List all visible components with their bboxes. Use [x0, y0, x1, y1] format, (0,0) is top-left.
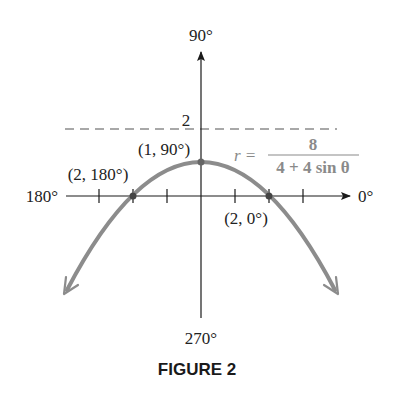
label-0deg: 0° — [358, 187, 373, 206]
figure-caption: FIGURE 2 — [158, 360, 236, 379]
equation: r = 8 4 + 4 sin θ — [234, 135, 359, 177]
point-label-0: (2, 0°) — [224, 209, 268, 228]
equation-denominator: 4 + 4 sin θ — [276, 158, 349, 177]
point-label-vertex: (1, 90°) — [138, 140, 190, 159]
point-180 — [130, 193, 137, 200]
point-0 — [266, 193, 273, 200]
label-90deg: 90° — [189, 26, 213, 45]
equation-numerator: 8 — [309, 135, 318, 154]
point-label-180: (2, 180°) — [68, 165, 129, 184]
polar-figure: 90° 270° 180° 0° 2 (1, 90°) (2, 180°) (2… — [0, 0, 400, 396]
label-180deg: 180° — [26, 187, 58, 206]
label-270deg: 270° — [185, 329, 217, 348]
point-vertex — [198, 159, 205, 166]
equation-lhs: r = — [234, 146, 256, 165]
directrix-label: 2 — [182, 111, 191, 130]
